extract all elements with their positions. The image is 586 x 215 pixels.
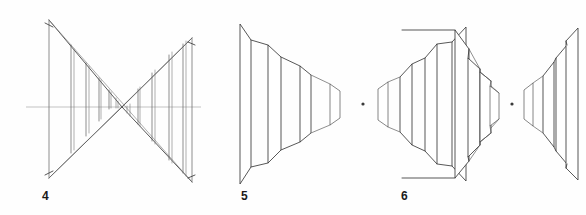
figure-6-left-panel-3	[480, 72, 491, 142]
figure-5-left-panels	[240, 24, 340, 184]
figure-6-left-panel-2	[468, 58, 480, 157]
figure-5-left-panel-4	[330, 84, 340, 125]
figure-6-right-panel-1	[524, 83, 533, 126]
figure-4-right-cone	[122, 38, 192, 182]
figure-4-right-frames	[127, 41, 186, 176]
figure-6-left-panels	[455, 30, 499, 178]
figure-4-group	[26, 20, 201, 182]
figure-6-right-panel-2	[543, 62, 554, 147]
figure-6-right-panels	[524, 28, 578, 180]
figure-5-left-panel-2	[268, 45, 281, 163]
figure-5-right-panels	[378, 27, 466, 181]
technical-drawing-canvas: .ink { fill: none; stroke: #3a3a3a; stro…	[0, 0, 586, 215]
figure-6-right-panel-3	[556, 45, 567, 164]
figure-4-left-frames	[71, 45, 118, 153]
figure-5-group	[240, 24, 466, 184]
figure-6-center-dot	[510, 102, 513, 105]
figure-5-right-panel-3	[425, 44, 437, 164]
figure-5-center-dot	[361, 102, 364, 105]
figure-4-label: 4	[42, 190, 49, 202]
figure-5-left-panel-3	[300, 66, 311, 142]
figure-5-right-panel-1	[378, 82, 388, 127]
figure-6-label: 6	[401, 190, 408, 202]
figure-5-left-panel-1	[240, 24, 251, 184]
figure-sheet: .ink { fill: none; stroke: #3a3a3a; stro…	[0, 0, 586, 215]
figure-5-right-panel-2	[400, 64, 412, 145]
figure-5-label: 5	[241, 190, 248, 202]
figure-6-left-panel-1	[455, 30, 469, 178]
figure-6-right-panel-4	[566, 28, 578, 180]
